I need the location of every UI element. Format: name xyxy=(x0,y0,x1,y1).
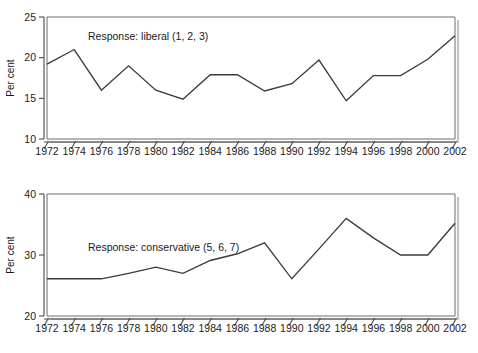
x-tick-label: 2000 xyxy=(416,322,440,334)
x-tick-label: 1980 xyxy=(144,145,168,157)
x-tick-label: 1996 xyxy=(362,145,386,157)
x-tick-label: 1982 xyxy=(171,145,195,157)
x-tick-label: 1988 xyxy=(253,322,277,334)
x-tick-label: 1986 xyxy=(226,145,250,157)
x-tick-label: 1994 xyxy=(335,145,359,157)
plot-frame-shadow xyxy=(50,197,458,319)
x-tick-label: 1996 xyxy=(362,322,386,334)
x-tick-label: 1990 xyxy=(280,322,304,334)
x-tick-label: 1992 xyxy=(307,145,331,157)
y-tick-label: 20 xyxy=(24,310,36,322)
series-annotation-label: Response: liberal (1, 2, 3) xyxy=(88,30,208,42)
x-tick-label: 2002 xyxy=(443,145,467,157)
x-tick-label: 1978 xyxy=(117,145,141,157)
x-tick-label: 1980 xyxy=(144,322,168,334)
x-tick-label: 2002 xyxy=(443,322,467,334)
liberal-line-chart: 10152025Per cent197219741976197819801982… xyxy=(0,0,478,176)
x-tick-label: 1986 xyxy=(226,322,250,334)
y-tick-label: 15 xyxy=(24,92,36,104)
x-tick-label: 1978 xyxy=(117,322,141,334)
x-tick-label: 1998 xyxy=(389,322,413,334)
x-tick-label: 1976 xyxy=(90,145,114,157)
x-tick-label: 1974 xyxy=(63,322,87,334)
chart-panel-conservative: 203040Per cent19721974197619781980198219… xyxy=(0,177,478,353)
x-tick-label: 1994 xyxy=(335,322,359,334)
x-tick-label: 1974 xyxy=(63,145,87,157)
chart-panel-liberal: 10152025Per cent197219741976197819801982… xyxy=(0,0,478,176)
series-annotation-label: Response: conservative (5, 6, 7) xyxy=(88,241,239,253)
x-tick-label: 1990 xyxy=(280,145,304,157)
y-tick-label: 40 xyxy=(24,188,36,200)
x-tick-label: 1998 xyxy=(389,145,413,157)
y-tick-label: 10 xyxy=(24,133,36,145)
plot-frame xyxy=(47,194,455,316)
y-axis-title: Per cent xyxy=(5,59,16,96)
y-axis-title: Per cent xyxy=(5,236,16,273)
y-tick-label: 25 xyxy=(24,11,36,23)
x-tick-label: 2000 xyxy=(416,145,440,157)
x-tick-label: 1976 xyxy=(90,322,114,334)
y-tick-label: 30 xyxy=(24,249,36,261)
x-tick-label: 1972 xyxy=(35,322,59,334)
conservative-line-chart: 203040Per cent19721974197619781980198219… xyxy=(0,177,478,353)
y-tick-label: 20 xyxy=(24,51,36,63)
chart-figure: 10152025Per cent197219741976197819801982… xyxy=(0,0,478,353)
x-tick-label: 1992 xyxy=(307,322,331,334)
x-tick-label: 1984 xyxy=(199,322,223,334)
x-tick-label: 1988 xyxy=(253,145,277,157)
data-series-line xyxy=(47,36,455,101)
x-tick-label: 1972 xyxy=(35,145,59,157)
x-tick-label: 1982 xyxy=(171,322,195,334)
x-tick-label: 1984 xyxy=(199,145,223,157)
